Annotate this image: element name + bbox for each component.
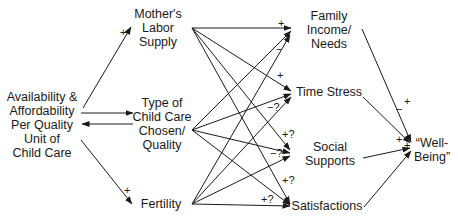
node-family-income: Family Income/ Needs — [304, 9, 354, 51]
label-fertility-satisfactions: +? — [261, 194, 274, 205]
label-childcare-social: −? — [270, 148, 283, 159]
edge-fertility-satisfactions — [192, 204, 290, 206]
label-labor-satisfactions: +? — [282, 175, 295, 186]
label-labor-timestress: + — [277, 70, 283, 81]
edge-income-wellbeing — [362, 29, 411, 142]
label-childcare-timestress: −? — [267, 102, 280, 113]
edge-avail-labor — [83, 27, 131, 108]
label-income-wellbeing: + — [404, 96, 410, 107]
node-social-supports: Social Supports — [300, 140, 360, 168]
edge-fertility-income — [192, 35, 290, 204]
node-time-stress: Time Stress — [294, 85, 364, 99]
label-labor-income: + — [278, 18, 284, 29]
label-childcare-income: − — [276, 44, 282, 55]
label-avail-labor: + — [120, 27, 126, 38]
edge-social-wellbeing — [363, 148, 410, 158]
edge-satisfactions-wellbeing — [364, 151, 411, 207]
edge-timestress-wellbeing — [363, 97, 410, 143]
node-fertility: Fertility — [136, 197, 186, 211]
edge-fertility-social — [192, 156, 290, 204]
node-mothers-labor-supply: Mother's Labor Supply — [132, 7, 184, 49]
node-type-of-child-care: Type of Child Care Chosen/ Quality — [132, 96, 192, 152]
node-availability: Availability & Affordability Per Quality… — [0, 90, 84, 160]
node-well-being: “Well- Being” — [412, 136, 452, 164]
node-satisfactions: Satisfactions — [291, 199, 363, 213]
label-fertility-social: +? — [282, 129, 295, 140]
label-timestress-wellbeing: − — [396, 104, 402, 115]
label-social-wellbeing: + — [396, 134, 402, 145]
label-avail-fertility: + — [124, 185, 130, 196]
label-satisfactions-wellbeing: + — [404, 140, 410, 151]
